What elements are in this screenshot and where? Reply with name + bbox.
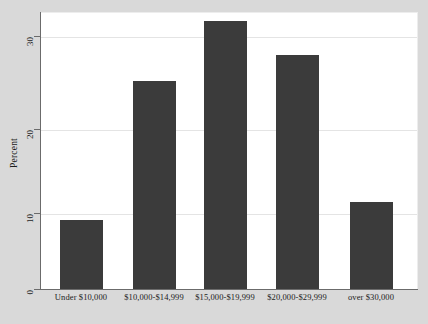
- x-tick-label-20000-29999: $20,000-$29,999: [256, 292, 338, 302]
- bar-under-10000: [60, 220, 103, 289]
- y-tick-label-20: 20: [25, 130, 35, 154]
- bars-layer: [41, 12, 418, 289]
- y-tick-label-0: 0: [25, 290, 35, 314]
- chart-screenshot: 0 10 20 30 Percent Under $10,000 $10,000…: [0, 0, 428, 324]
- x-axis-labels: Under $10,000 $10,000-$14,999 $15,000-$1…: [40, 292, 418, 312]
- bar-over-30000: [350, 202, 393, 289]
- bar-20000-29999: [276, 55, 319, 289]
- y-tick-label-10: 10: [25, 214, 35, 238]
- bar-15000-19999: [204, 21, 247, 289]
- y-tick-label-30: 30: [25, 37, 35, 61]
- bar-10000-14999: [133, 81, 176, 289]
- x-tick-label-15000-19999: $15,000-$19,999: [184, 292, 266, 302]
- x-tick-label-10000-14999: $10,000-$14,999: [113, 292, 195, 302]
- x-tick-label-under-10000: Under $10,000: [40, 292, 122, 302]
- y-axis-title: Percent: [9, 133, 19, 173]
- x-axis-line: [40, 289, 418, 290]
- x-tick-label-over-30000: over $30,000: [330, 292, 412, 302]
